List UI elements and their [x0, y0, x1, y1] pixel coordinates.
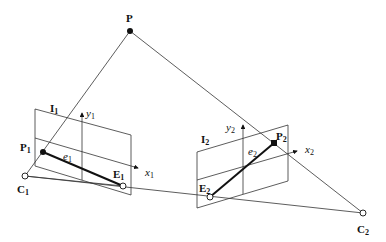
epipolar-line-2: [210, 143, 274, 197]
label-p: P: [126, 12, 133, 24]
camera-center-c2: [360, 210, 366, 216]
point-p1: [40, 149, 46, 155]
x1-axis: [35, 138, 138, 168]
epipolar-diagram: P I1 y1 P1 e1 x1 E1 C1 I2 y2 P2 e2 x2 E2…: [0, 0, 386, 242]
label-y1: y1: [85, 107, 95, 121]
label-e1: e1: [63, 150, 72, 164]
label-c1: C1: [17, 183, 29, 197]
ray-p-c1: [25, 31, 130, 176]
label-p1: P1: [20, 141, 31, 155]
point-p: [127, 28, 133, 34]
label-x2: x2: [304, 143, 314, 157]
ray-p-c2: [130, 31, 363, 213]
label-x1: x1: [144, 166, 154, 180]
label-e1-epipole: E1: [113, 168, 124, 182]
epipole-e1: [120, 183, 126, 189]
label-y2: y2: [225, 121, 235, 135]
camera-center-c1: [22, 173, 28, 179]
label-p2: P2: [276, 130, 287, 144]
label-c2: C2: [357, 223, 369, 237]
label-i1: I1: [50, 102, 58, 116]
label-e2: e2: [248, 145, 257, 159]
label-i2: I2: [201, 133, 209, 147]
label-e2-epipole: E2: [199, 182, 210, 196]
